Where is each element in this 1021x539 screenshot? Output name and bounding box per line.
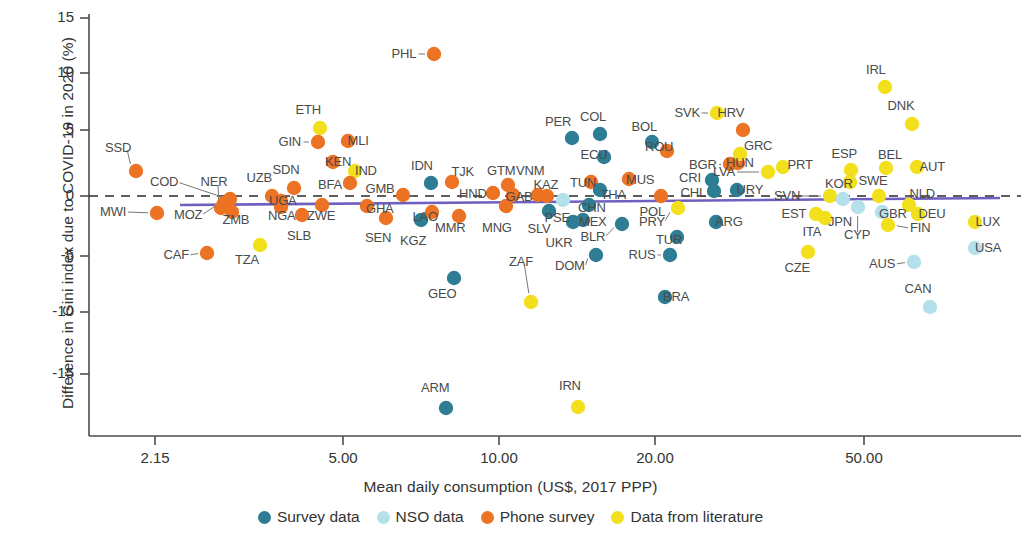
point-label-lux: LUX — [976, 214, 1001, 229]
point-label-mng: MNG — [482, 220, 512, 235]
point-label-cri: CRI — [679, 170, 701, 185]
data-point-per — [565, 131, 579, 145]
data-point-eth — [313, 121, 327, 135]
legend-item-phone-survey[interactable]: Phone survey — [481, 508, 595, 526]
leader-line-caf — [190, 254, 198, 255]
data-point-lva — [761, 165, 775, 179]
x-tick-label-20-00: 20.00 — [610, 449, 700, 466]
point-label-pse: PSE — [545, 210, 570, 225]
data-point-dom — [589, 248, 603, 262]
point-label-kaz: KAZ — [534, 177, 559, 192]
point-label-ner: NER — [201, 174, 228, 189]
point-label-lva: LVA — [713, 164, 735, 179]
point-label-gbr: GBR — [879, 206, 907, 221]
point-label-svk: SVK — [675, 105, 700, 120]
legend-label: Data from literature — [630, 508, 763, 526]
legend-item-nso-data[interactable]: NSO data — [377, 508, 464, 526]
y-tick-label-10: 10 — [26, 63, 74, 80]
point-label-svn: SVN — [774, 188, 800, 203]
data-point-caf — [200, 246, 214, 260]
leader-line-aus — [897, 263, 905, 264]
point-label-slb: SLB — [287, 228, 311, 243]
point-label-bfa: BFA — [318, 177, 342, 192]
point-label-nld: NLD — [910, 186, 935, 201]
data-point-pol — [654, 189, 668, 203]
point-label-gab: GAB — [506, 189, 533, 204]
point-label-nga: NGA — [268, 208, 296, 223]
leader-line-dom — [586, 259, 588, 265]
point-label-phl: PHL — [392, 46, 417, 61]
point-label-cyp: CYP — [844, 227, 870, 242]
legend-item-data-from-literature[interactable]: Data from literature — [611, 508, 763, 526]
y-tick-marks — [80, 18, 89, 374]
legend-label: Survey data — [277, 508, 360, 526]
point-label-kor: KOR — [825, 176, 853, 191]
leader-line-mwi — [128, 212, 148, 213]
data-point-mwi — [150, 206, 164, 220]
data-point-phl — [427, 47, 441, 61]
point-label-ken: KEN — [325, 154, 351, 169]
data-point-cze — [801, 245, 815, 259]
y-tick-label-neg10: -10 — [26, 302, 74, 319]
point-label-ukr: UKR — [546, 235, 573, 250]
point-label-aut: AUT — [920, 159, 945, 174]
data-point-jpn — [836, 192, 850, 206]
legend-item-survey-data[interactable]: Survey data — [258, 508, 360, 526]
data-point-can — [923, 300, 937, 314]
data-point-swe — [872, 189, 886, 203]
leader-line-blr — [606, 228, 614, 236]
legend-swatch-icon — [611, 511, 624, 524]
point-label-geo: GEO — [428, 286, 456, 301]
data-point-aus — [907, 255, 921, 269]
point-label-mex: MEX — [579, 214, 607, 229]
data-point-rus — [663, 248, 677, 262]
point-label-fin: FIN — [910, 220, 930, 235]
point-label-rus: RUS — [629, 247, 656, 262]
data-point-dnk — [905, 117, 919, 131]
x-tick-label-2-15: 2.15 — [110, 449, 200, 466]
x-tick-label-50-00: 50.00 — [819, 449, 909, 466]
point-label-esp: ESP — [832, 146, 857, 161]
legend-swatch-icon — [481, 511, 494, 524]
point-label-cod: COD — [150, 174, 178, 189]
point-label-dom: DOM — [555, 258, 585, 273]
point-label-tjk: TJK — [452, 164, 475, 179]
point-label-per: PER — [545, 114, 571, 129]
point-label-usa: USA — [975, 240, 1001, 255]
point-label-swe: SWE — [859, 173, 888, 188]
point-label-tza: TZA — [235, 252, 259, 267]
point-label-zaf: ZAF — [509, 254, 533, 269]
point-label-ind: IND — [355, 163, 377, 178]
point-label-chn: CHN — [578, 200, 606, 215]
legend-swatch-icon — [258, 511, 271, 524]
point-label-tha: THA — [601, 187, 626, 202]
point-label-col: COL — [580, 109, 606, 124]
point-label-ssd: SSD — [105, 140, 131, 155]
y-tick-label-5: 5 — [26, 120, 74, 137]
point-label-est: EST — [782, 206, 807, 221]
point-label-ury: URY — [737, 182, 764, 197]
point-label-deu: DEU — [919, 206, 946, 221]
data-point-gin — [311, 135, 325, 149]
data-point-col — [593, 127, 607, 141]
data-point-geo — [447, 271, 461, 285]
point-label-mli: MLI — [348, 133, 369, 148]
point-label-zmb: ZMB — [223, 212, 250, 227]
point-label-pry: PRY — [639, 214, 665, 229]
point-label-uga: UGA — [269, 193, 297, 208]
point-label-irn: IRN — [559, 378, 581, 393]
legend-label: Phone survey — [500, 508, 595, 526]
point-label-rou: ROU — [645, 139, 673, 154]
x-tick-label-5-00: 5.00 — [298, 449, 388, 466]
point-label-blr: BLR — [581, 229, 606, 244]
point-label-gmb: GMB — [366, 181, 395, 196]
point-label-sen: SEN — [365, 230, 391, 245]
point-label-ecu: ECU — [581, 147, 608, 162]
data-point-cyp — [851, 200, 865, 214]
point-label-mus: MUS — [626, 172, 654, 187]
point-label-prt: PRT — [788, 157, 813, 172]
point-label-bel: BEL — [878, 147, 902, 162]
point-label-arg: ARG — [715, 214, 743, 229]
point-label-zwe: ZWE — [307, 208, 335, 223]
leader-line-pry — [665, 212, 670, 220]
